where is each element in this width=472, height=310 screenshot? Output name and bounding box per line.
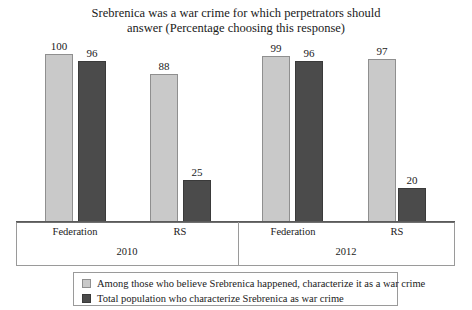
axis-group-label: 2010 — [87, 246, 167, 257]
bar-value-label: 20 — [392, 174, 432, 186]
chart-title: Srebrenica was a war crime for which per… — [70, 6, 402, 36]
bar — [368, 59, 396, 222]
legend-item-label: Among those who believe Srebrenica happe… — [97, 278, 425, 289]
bar — [398, 188, 426, 222]
axis-category-label: Federation — [253, 226, 333, 237]
chart-title-line-2: answer (Percentage choosing this respons… — [70, 21, 402, 36]
legend-swatch-icon — [82, 294, 91, 303]
axis-category-label: Federation — [35, 226, 115, 237]
bar — [45, 54, 73, 222]
axis-category-label: RS — [357, 226, 437, 237]
legend-swatch-icon — [82, 279, 91, 288]
chart-title-line-1: Srebrenica was a war crime for which per… — [70, 6, 402, 21]
bar-value-label: 25 — [177, 166, 217, 178]
bar — [150, 74, 178, 222]
bar-value-label: 96 — [72, 47, 112, 59]
bar — [183, 180, 211, 222]
bar — [78, 61, 106, 222]
plot-area: 10096882599969720 — [0, 36, 472, 222]
bar — [262, 56, 290, 222]
legend-item: Total population who characterize Srebre… — [82, 292, 397, 305]
bar-value-label: 96 — [289, 47, 329, 59]
legend-item-label: Total population who characterize Srebre… — [97, 293, 344, 304]
axis-group-label: 2012 — [306, 246, 386, 257]
chart-legend: Among those who believe Srebrenica happe… — [73, 272, 398, 306]
group-divider — [238, 222, 239, 266]
legend-item: Among those who believe Srebrenica happe… — [82, 277, 397, 290]
bar-chart: Srebrenica was a war crime for which per… — [0, 0, 472, 310]
bar — [295, 61, 323, 222]
bar-value-label: 97 — [362, 45, 402, 57]
axis-category-label: RS — [140, 226, 220, 237]
bar-value-label: 88 — [144, 60, 184, 72]
